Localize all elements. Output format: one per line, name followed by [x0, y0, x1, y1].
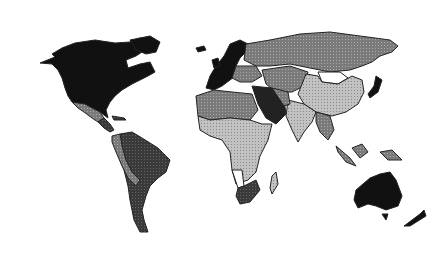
region-namibia [232, 170, 244, 188]
region-caribbean [112, 116, 126, 120]
region-indonesia [336, 144, 402, 166]
region-brazil [116, 132, 170, 232]
region-russia [244, 32, 398, 72]
region-japan [368, 76, 382, 98]
region-tasmania [382, 214, 388, 220]
world-choropleth-map [0, 0, 443, 254]
region-madagascar [270, 172, 278, 194]
region-central-america [98, 118, 114, 132]
region-uk [212, 58, 220, 68]
region-eastern-europe [232, 66, 262, 82]
region-australia [354, 172, 402, 210]
region-iceland [196, 46, 206, 52]
region-north-africa [196, 90, 258, 120]
region-new-zealand [404, 210, 426, 226]
